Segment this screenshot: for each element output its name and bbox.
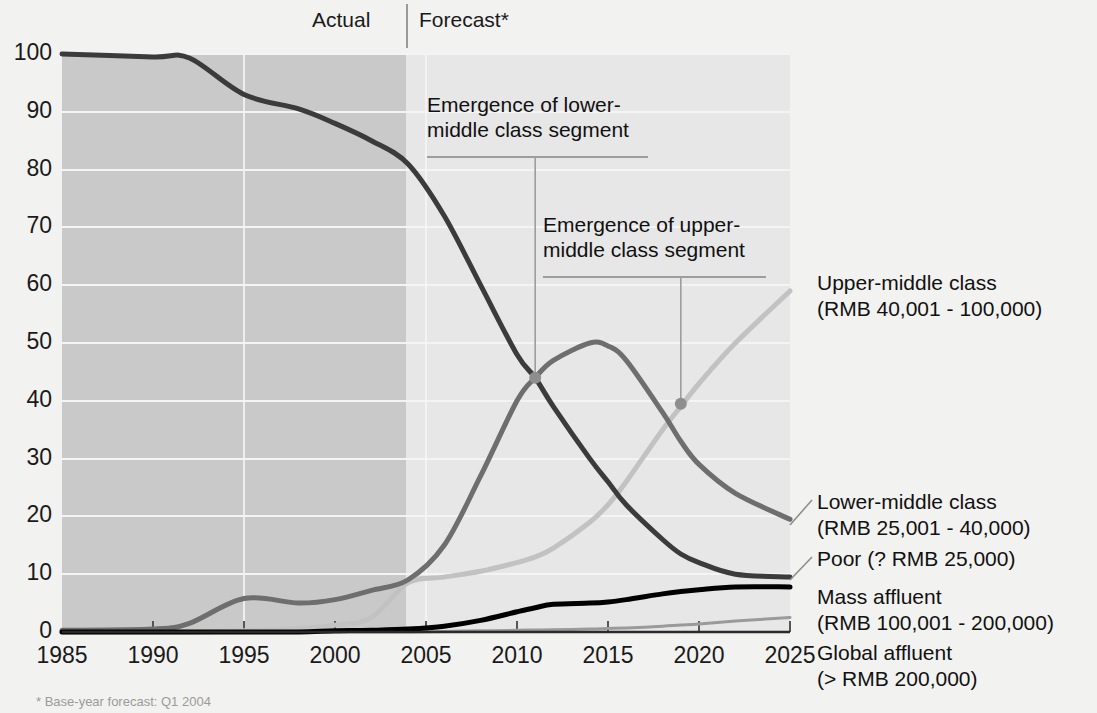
annotation-lower-middle: Emergence of lower- middle class segment: [427, 92, 629, 142]
series-label-upper-middle-line2: (RMB 40,001 - 100,000): [817, 296, 1042, 322]
forecast-period-label: Forecast*: [419, 8, 509, 32]
series-label-poor: Poor (? RMB 25,000): [817, 546, 1015, 572]
x-axis-tick: [243, 621, 245, 632]
x-axis-tick-label: 2000: [297, 642, 373, 669]
x-axis-tick: [516, 621, 518, 632]
y-axis-tick-label: 30: [0, 444, 52, 471]
annotation-upper-line2: middle class segment: [543, 237, 745, 262]
series-label-lower-middle-line1: Lower-middle class: [817, 489, 1031, 515]
x-axis-tick: [334, 621, 336, 632]
x-axis-tick: [152, 621, 154, 632]
series-label-global-line1: Global affluent: [817, 640, 978, 666]
series-label-global-line2: (> RMB 200,000): [817, 666, 978, 692]
chart-canvas: Actual Forecast* 0102030405060708090100 …: [0, 0, 1097, 713]
series-label-poor-line1: Poor (? RMB 25,000): [817, 546, 1015, 572]
annotation-upper-rule: [543, 276, 766, 278]
series-label-pointer: [790, 500, 812, 525]
x-axis-tick-label: 2020: [661, 642, 737, 669]
series-label-global-affluent: Global affluent (> RMB 200,000): [817, 640, 978, 692]
x-axis-tick-label: 1985: [24, 642, 100, 669]
x-axis-tick: [607, 621, 609, 632]
series-label-mass-affluent: Mass affluent (RMB 100,001 - 200,000): [817, 584, 1054, 636]
x-axis-tick-label: 2005: [388, 642, 464, 669]
annotation-lower-line2: middle class segment: [427, 117, 629, 142]
y-axis-tick-label: 100: [0, 39, 52, 66]
series-label-upper-middle: Upper-middle class (RMB 40,001 - 100,000…: [817, 270, 1042, 322]
x-axis-tick-label: 2015: [570, 642, 646, 669]
y-axis-tick-label: 80: [0, 155, 52, 182]
annotation-lower-rule: [427, 156, 648, 158]
annotation-upper-middle: Emergence of upper- middle class segment: [543, 212, 745, 262]
annotation-upper-line1: Emergence of upper-: [543, 212, 745, 237]
y-axis-tick-label: 90: [0, 97, 52, 124]
actual-period-label: Actual: [312, 8, 370, 32]
y-axis-tick-label: 10: [0, 559, 52, 586]
series-label-mass-line1: Mass affluent: [817, 584, 1054, 610]
x-axis-tick-label: 1990: [115, 642, 191, 669]
series-label-upper-middle-line1: Upper-middle class: [817, 270, 1042, 296]
x-axis-tick: [789, 621, 791, 632]
y-axis-tick-label: 60: [0, 270, 52, 297]
x-axis-tick-label: 1995: [206, 642, 282, 669]
x-axis-tick: [698, 621, 700, 632]
period-divider: [406, 4, 408, 48]
y-axis-tick-label: 70: [0, 212, 52, 239]
footnote: * Base-year forecast: Q1 2004: [36, 694, 211, 709]
x-axis-tick-label: 2010: [479, 642, 555, 669]
series-label-mass-line2: (RMB 100,001 - 200,000): [817, 610, 1054, 636]
y-axis-tick-label: 40: [0, 386, 52, 413]
gridline-vertical: [243, 54, 245, 632]
series-label-pointer: [790, 557, 812, 580]
x-axis-tick: [425, 621, 427, 632]
annotation-lower-line1: Emergence of lower-: [427, 92, 629, 117]
y-axis-tick-label: 0: [0, 617, 52, 644]
y-axis-tick-label: 50: [0, 328, 52, 355]
series-label-lower-middle-line2: (RMB 25,001 - 40,000): [817, 515, 1031, 541]
series-label-lower-middle: Lower-middle class (RMB 25,001 - 40,000): [817, 489, 1031, 541]
y-axis-tick-label: 20: [0, 501, 52, 528]
